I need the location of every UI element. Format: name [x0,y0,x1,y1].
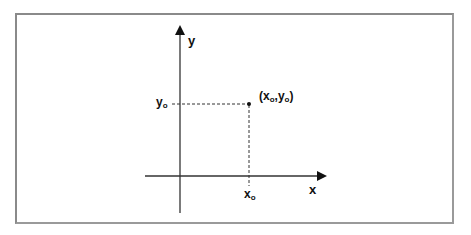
y-axis-arrow-icon [175,25,185,35]
x-axis-arrow-icon [317,171,327,181]
coordinate-diagram: y x yo xo (xo,yo) [0,0,471,235]
x-axis-label: x [309,182,317,197]
x0-tick-label: xo [244,187,256,202]
y0-tick-label: yo [156,95,168,110]
y-axis-label: y [188,33,196,48]
point-marker [247,102,251,106]
point-label: (xo,yo) [259,89,293,104]
